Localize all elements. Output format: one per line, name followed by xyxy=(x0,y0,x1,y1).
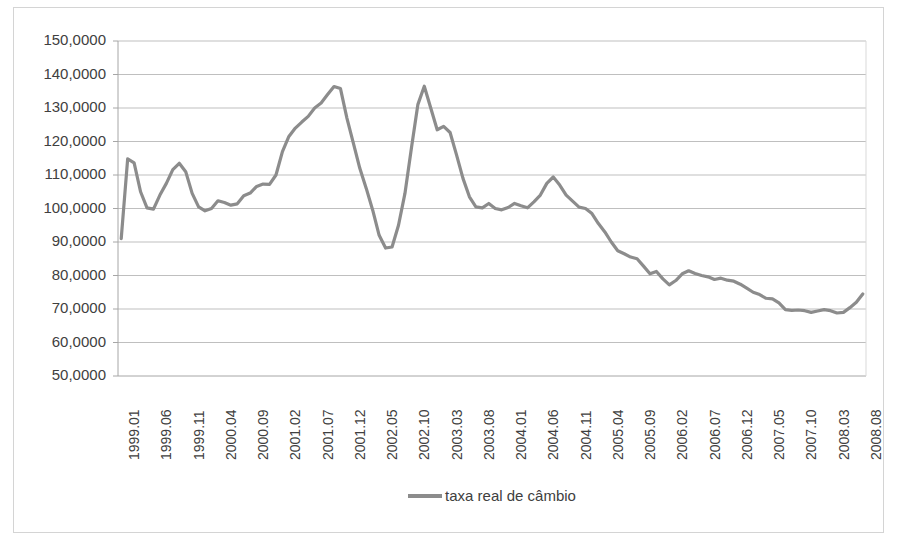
y-axis-tick-label: 80,0000 xyxy=(22,266,106,283)
y-axis-tick-label: 110,0000 xyxy=(22,165,106,182)
x-axis-tick-label: 1999.06 xyxy=(158,409,174,460)
gridlines xyxy=(113,41,866,376)
y-axis-tick-label: 60,0000 xyxy=(22,333,106,350)
x-axis-tick-label: 1999.11 xyxy=(191,410,207,460)
y-axis-tick-label: 130,0000 xyxy=(22,98,106,115)
x-axis-tick-label: 2003.03 xyxy=(449,409,465,460)
chart-canvas xyxy=(0,0,899,551)
legend-entry-label: taxa real de câmbio xyxy=(445,487,576,504)
y-axis-tick-label: 140,0000 xyxy=(22,65,106,82)
x-axis-tick-label: 2007.05 xyxy=(771,409,787,460)
x-axis-tick-label: 2008.03 xyxy=(836,409,852,460)
x-axis-tick-label: 2000.09 xyxy=(255,409,271,460)
x-axis-tick-label: 2006.12 xyxy=(739,409,755,460)
x-axis-tick-label: 2002.05 xyxy=(384,409,400,460)
x-axis-tick-label: 2006.07 xyxy=(707,409,723,460)
x-axis-tick-label: 2002.10 xyxy=(416,409,432,460)
line-swatch xyxy=(408,494,442,498)
y-axis-tick-label: 150,0000 xyxy=(22,31,106,48)
x-axis-tick-label: 2000.04 xyxy=(223,409,239,460)
y-axis-tick-label: 50,0000 xyxy=(22,366,106,383)
x-axis-tick-label: 2001.07 xyxy=(320,409,336,460)
x-axis-tick-label: 2007.10 xyxy=(803,409,819,460)
x-axis-tick-label: 2004.06 xyxy=(545,409,561,460)
x-axis-tick-label: 2005.04 xyxy=(610,409,626,460)
x-axis-tick-label: 2004.11 xyxy=(578,410,594,460)
x-axis-tick-label: 2006.02 xyxy=(674,409,690,460)
x-axis-tick-label: 2005.09 xyxy=(642,409,658,460)
x-axis-tick-label: 1999.01 xyxy=(126,409,142,460)
x-axis-tick-label: 2004.01 xyxy=(513,409,529,460)
chart-legend: taxa real de câmbio xyxy=(118,487,866,504)
y-axis-tick-label: 90,0000 xyxy=(22,232,106,249)
x-axis-tick-label: 2001.02 xyxy=(287,409,303,460)
x-axis-tick-label: 2008.08 xyxy=(868,409,884,460)
y-axis-tick-label: 120,0000 xyxy=(22,132,106,149)
y-axis-tick-label: 100,0000 xyxy=(22,199,106,216)
x-axis-tick-label: 2003.08 xyxy=(481,409,497,460)
y-axis-tick-label: 70,0000 xyxy=(22,299,106,316)
x-axis-tick-label: 2001.12 xyxy=(352,409,368,460)
data-series-line xyxy=(121,86,863,313)
